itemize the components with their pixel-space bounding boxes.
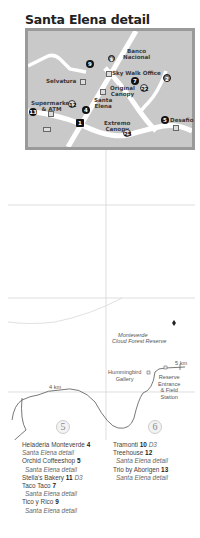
label-4km: 4 km [49,384,61,391]
marker-22[interactable]: 22 [140,84,148,92]
index-sub: Santa Elena detail [22,466,90,474]
marker-12[interactable]: 12 [68,100,76,108]
selvatura-square-icon [80,79,86,85]
santa-elena-inset-map[interactable]: Banco Nacional $ 9 Sky Walk Office Selva… [25,28,195,150]
marker-4[interactable]: 4 [82,106,90,114]
label-banco-nacional: Banco Nacional [123,48,150,60]
marker-2[interactable]: 2 [163,74,171,82]
desafio-square-icon [173,125,179,131]
grid-label-6: 6 [148,420,162,434]
label-selvatura: Selvatura [46,78,76,84]
original-canopy-square-icon [100,89,106,95]
label-hummingbird-gallery: Hummingbird Gallery [108,369,141,382]
index-entry[interactable]: Heladeria Monteverde 4 [22,441,90,449]
post-office-icon [43,127,51,132]
supermarket-square-icon [48,111,54,117]
bank-icon: $ [108,55,115,62]
marker-9[interactable]: 9 [86,60,94,68]
label-santa-elena: Santa Elena [94,97,112,109]
marker-7[interactable]: 7 [131,77,139,85]
label-desafio: Desafio [170,117,194,123]
main-map-area[interactable]: Monteverde Cloud Forest Reserve Hummingb… [0,150,200,440]
index-right-column: Tramonti 10 D3 Treehouse 12 Santa Elena … [113,441,168,482]
index-sub: Santa Elena detail [113,474,168,482]
label-skywalk-office: Sky Walk Office [112,70,161,76]
index-entry[interactable]: Tico y Rico 9 [22,498,90,506]
marker-1-info[interactable]: 1 [76,119,84,127]
marker-25[interactable]: 25 [123,129,131,137]
index-entry[interactable]: Treehouse 12 [113,449,168,457]
index-sub: Santa Elena detail [22,507,90,515]
index-entry[interactable]: Tramonti 10 D3 [113,441,168,449]
index-sub: Santa Elena detail [22,449,90,457]
label-original-canopy: Original Canopy [110,85,135,97]
index-entry[interactable]: Taco Taco 7 [22,482,90,490]
marker-5[interactable]: 5 [161,116,169,124]
label-reserve-entrance: Reserve Entrance & Field Station [158,374,180,400]
index-sub: Santa Elena detail [22,490,90,498]
marker-13[interactable]: 13 [29,108,37,116]
grid-label-5: 5 [56,420,70,434]
index-entry[interactable]: Orchid Coffeeshop 5 [22,457,90,465]
index-left-column: Heladeria Monteverde 4 Santa Elena detai… [22,441,90,515]
index-entry[interactable]: Stella's Bakery 11 D3 [22,474,90,482]
label-5km: 5 km [175,360,187,367]
index-sub: Santa Elena detail [113,457,168,465]
label-reserve-line2: Cloud Forest Reserve [112,338,166,345]
index-entry[interactable]: Trio by Aborigen 13 [113,466,168,474]
page-title: Santa Elena detail [25,12,150,27]
